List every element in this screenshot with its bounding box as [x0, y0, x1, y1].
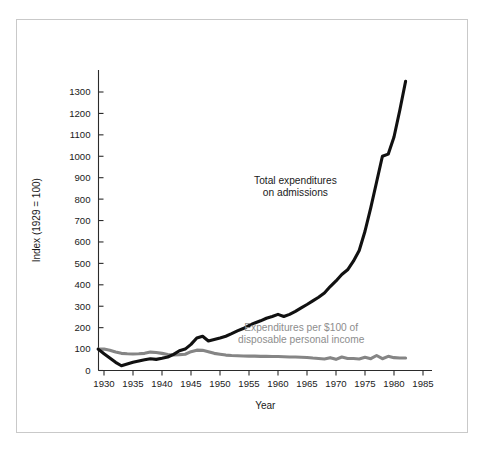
x-tick-label: 1985	[412, 378, 433, 389]
x-tick-label: 1955	[238, 378, 259, 389]
y-axis-title: Index (1929 = 100)	[31, 178, 42, 262]
x-axis-title: Year	[255, 400, 276, 411]
series-line-expenditures-per-100-income	[98, 349, 405, 359]
chart-page: 0100200300400500600700800900100011001200…	[0, 0, 485, 452]
annotation-per-100-income-line2: disposable personal income	[238, 334, 365, 345]
x-tick-label: 1945	[180, 378, 201, 389]
annotation-per-100-income-line1: Expenditures per $100 of	[244, 322, 358, 333]
line-chart: 0100200300400500600700800900100011001200…	[0, 0, 485, 452]
y-tick-label: 1000	[69, 151, 90, 162]
x-tick-label: 1935	[122, 378, 143, 389]
annotation-total-expenditures-line2: on admissions	[263, 187, 328, 198]
x-tick-label: 1940	[151, 378, 172, 389]
y-tick-label: 1100	[70, 129, 91, 140]
x-tick-label: 1950	[209, 378, 230, 389]
y-tick-label: 300	[74, 301, 90, 312]
y-tick-label: 100	[74, 343, 90, 354]
annotation-total-expenditures-line1: Total expenditures	[254, 175, 337, 186]
x-tick-label: 1960	[267, 378, 288, 389]
y-tick-label: 1200	[69, 108, 90, 119]
x-tick-label: 1965	[296, 378, 317, 389]
x-tick-label: 1970	[325, 378, 346, 389]
y-tick-label: 0	[85, 365, 90, 376]
y-tick-label: 800	[74, 194, 90, 205]
y-tick-label: 400	[74, 279, 90, 290]
x-tick-label: 1975	[354, 378, 375, 389]
x-tick-label: 1930	[93, 378, 114, 389]
y-tick-label: 600	[74, 236, 90, 247]
y-tick-label: 200	[74, 322, 90, 333]
y-tick-label: 500	[74, 258, 90, 269]
y-tick-label: 700	[74, 215, 90, 226]
x-axis-ticks: 1930193519401945195019551960196519701975…	[93, 371, 433, 390]
y-tick-label: 900	[74, 172, 90, 183]
y-tick-label: 1300	[69, 86, 90, 97]
x-tick-label: 1980	[383, 378, 404, 389]
